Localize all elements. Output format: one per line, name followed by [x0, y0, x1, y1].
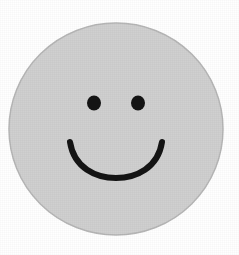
left-eye	[87, 96, 101, 111]
right-eye	[131, 96, 145, 111]
smiley-face-drawing	[0, 0, 239, 255]
image-canvas	[0, 0, 239, 255]
face-circle	[9, 23, 223, 235]
